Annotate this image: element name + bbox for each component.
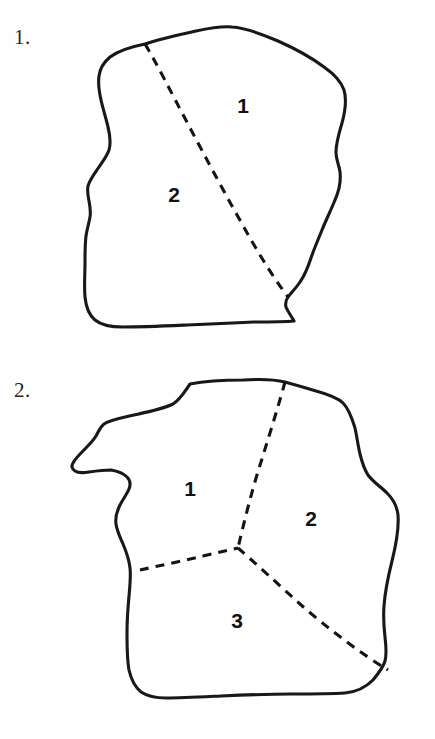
figure-1-region-label-1: 1 — [237, 94, 249, 117]
figure-2-region-label-1: 1 — [184, 477, 196, 500]
figure-2-region-label-2: 2 — [305, 507, 317, 530]
figure-2-region-label-3: 3 — [231, 609, 243, 632]
figure-2-outline-path — [72, 379, 398, 698]
figure-1-region-label-2: 2 — [168, 183, 180, 206]
figure-2-block: 2. 1 2 3 — [0, 360, 435, 739]
figure-1-drawing: 1 2 — [0, 0, 435, 360]
figure-2-drawing: 1 2 3 — [0, 360, 435, 739]
figure-1-block: 1. 1 2 — [0, 0, 435, 360]
worksheet-page: 1. 1 2 2. 1 2 3 — [0, 0, 435, 739]
